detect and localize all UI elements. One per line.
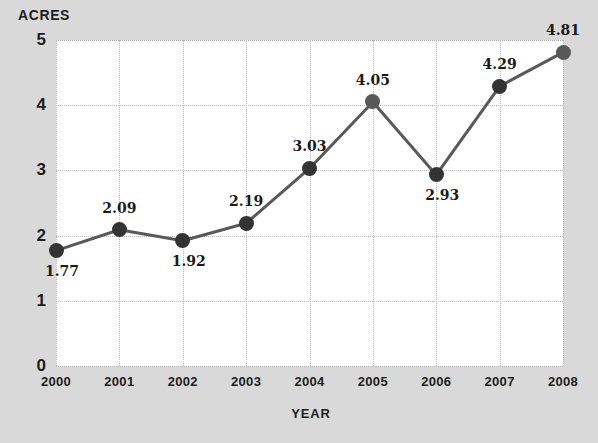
x-tick-2008: 2008 xyxy=(533,374,593,389)
data-point-2008 xyxy=(556,45,571,60)
data-point-2007 xyxy=(492,79,507,94)
x-tick-2001: 2001 xyxy=(89,374,149,389)
value-label-2001: 2.09 xyxy=(102,200,136,216)
value-label-2003: 2.19 xyxy=(229,193,263,209)
data-point-2003 xyxy=(239,216,254,231)
value-label-2005: 4.05 xyxy=(356,72,390,88)
x-tick-2004: 2004 xyxy=(280,374,340,389)
gridline-x-2004 xyxy=(310,40,311,366)
gridline-x-2000 xyxy=(56,40,57,366)
data-point-2001 xyxy=(112,222,127,237)
gridline-y-0 xyxy=(56,366,563,367)
x-tick-2003: 2003 xyxy=(216,374,276,389)
value-label-2006: 2.93 xyxy=(425,187,459,203)
y-tick-5: 5 xyxy=(16,30,46,50)
value-label-2002: 1.92 xyxy=(172,253,206,269)
y-tick-2: 2 xyxy=(16,226,46,246)
gridline-x-2002 xyxy=(183,40,184,366)
value-label-2004: 3.03 xyxy=(292,138,326,154)
y-tick-1: 1 xyxy=(16,291,46,311)
value-label-2008: 4.81 xyxy=(546,22,580,38)
x-tick-2000: 2000 xyxy=(26,374,86,389)
y-tick-0: 0 xyxy=(16,356,46,376)
y-axis-title: ACRES xyxy=(18,7,70,23)
value-label-2000: 1.77 xyxy=(45,263,79,279)
gridline-x-2005 xyxy=(373,40,374,366)
gridline-x-2008 xyxy=(563,40,564,366)
x-axis-title: YEAR xyxy=(12,406,598,421)
data-point-2004 xyxy=(302,161,317,176)
x-tick-2005: 2005 xyxy=(343,374,403,389)
y-tick-3: 3 xyxy=(16,160,46,180)
x-tick-2002: 2002 xyxy=(153,374,213,389)
x-tick-2006: 2006 xyxy=(406,374,466,389)
y-tick-4: 4 xyxy=(16,95,46,115)
x-tick-2007: 2007 xyxy=(470,374,530,389)
value-label-2007: 4.29 xyxy=(483,56,517,72)
acres-line-chart: ACRES 012345 200020012002200320042005200… xyxy=(0,0,598,443)
data-point-2000 xyxy=(49,243,64,258)
gridline-x-2006 xyxy=(436,40,437,366)
